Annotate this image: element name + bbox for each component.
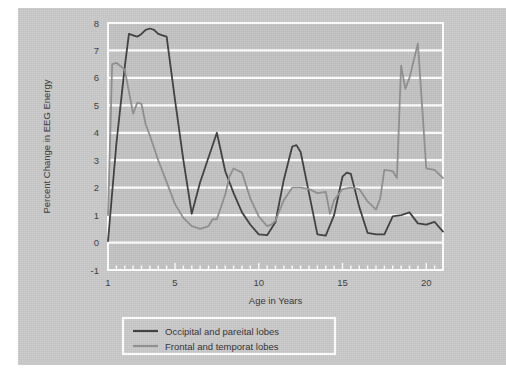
y-tick-label-2: 2 bbox=[94, 182, 99, 193]
y-tick-label-8: 8 bbox=[94, 18, 99, 29]
y-tick-label-4: 4 bbox=[94, 127, 99, 138]
plot-area-background bbox=[108, 23, 443, 270]
x-axis-title: Age in Years bbox=[249, 295, 303, 306]
x-tick-label-15: 15 bbox=[337, 277, 348, 288]
x-tick-label-10: 10 bbox=[253, 277, 264, 288]
x-tick-label-1: 1 bbox=[105, 277, 110, 288]
legend-label-0: Occipital and pareital lobes bbox=[165, 326, 279, 337]
y-tick-label-5: 5 bbox=[94, 100, 99, 111]
figure-panel: -101234567815101520Age in YearsPercent C… bbox=[18, 8, 506, 365]
y-axis-title: Percent Change in EEG Energy bbox=[41, 79, 52, 213]
y-tick-label-0: 0 bbox=[94, 237, 99, 248]
y-tick-label-7: 7 bbox=[94, 45, 99, 56]
y-tick-label--1: -1 bbox=[91, 265, 99, 276]
eeg-energy-line-chart: -101234567815101520Age in YearsPercent C… bbox=[18, 8, 506, 365]
x-tick-label-5: 5 bbox=[172, 277, 177, 288]
y-tick-label-1: 1 bbox=[94, 210, 99, 221]
x-tick-label-20: 20 bbox=[421, 277, 432, 288]
legend-label-1: Frontal and temporat lobes bbox=[165, 341, 279, 352]
y-tick-label-6: 6 bbox=[94, 72, 99, 83]
y-tick-label-3: 3 bbox=[94, 155, 99, 166]
